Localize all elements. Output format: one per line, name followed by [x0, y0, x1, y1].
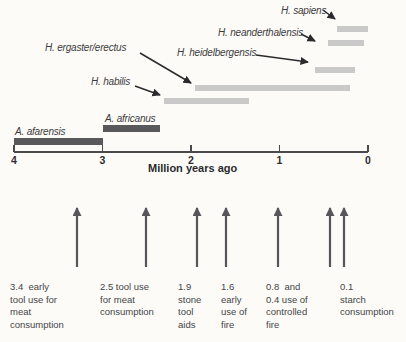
event-label-line: controlled: [266, 306, 308, 319]
event-label-line: tool: [178, 306, 201, 319]
event-label-line: 0.4 use of: [266, 294, 308, 307]
event-label-line: consumption: [100, 306, 154, 319]
event-label: 1.6earlyuse offire: [221, 281, 247, 331]
event-label-line: 3.4 early: [10, 281, 64, 294]
event-label: 0.8 and0.4 use ofcontrolledfire: [266, 281, 308, 331]
event-label-line: 0.8 and: [266, 281, 308, 294]
event-label-line: for meat: [100, 294, 154, 307]
event-label-line: use of: [221, 306, 247, 319]
event-labels-layer: 3.4 earlytool use formeatconsumption2.5 …: [0, 0, 406, 342]
event-label-line: consumption: [10, 319, 64, 332]
event-label-line: tool use for: [10, 294, 64, 307]
event-label-line: starch: [340, 294, 394, 307]
event-label-line: aids: [178, 319, 201, 332]
hominin-timeline-figure: H. sapiensH. neanderthalensisH. heidelbe…: [0, 0, 406, 342]
event-label-line: 1.9: [178, 281, 201, 294]
event-label-line: 1.6: [221, 281, 247, 294]
event-label: 0.1starchconsumption: [340, 281, 394, 319]
event-label: 3.4 earlytool use formeatconsumption: [10, 281, 64, 331]
event-label-line: 2.5 tool use: [100, 281, 154, 294]
event-label-line: 0.1: [340, 281, 394, 294]
event-label-line: meat: [10, 306, 64, 319]
event-label-line: early: [221, 294, 247, 307]
event-label-line: fire: [221, 319, 247, 332]
event-label-line: consumption: [340, 306, 394, 319]
event-label: 1.9stonetoolaids: [178, 281, 201, 331]
event-label: 2.5 tool usefor meatconsumption: [100, 281, 154, 319]
event-label-line: fire: [266, 319, 308, 332]
event-label-line: stone: [178, 294, 201, 307]
